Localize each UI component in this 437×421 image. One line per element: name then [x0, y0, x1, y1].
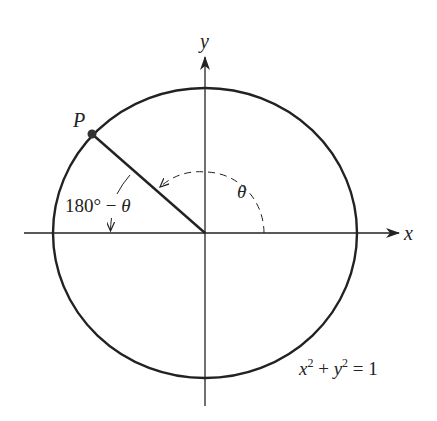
equation-rhs: = 1 [348, 358, 378, 379]
supplement-angle-prefix: 180° − [65, 195, 121, 216]
point-p-marker [88, 130, 97, 139]
supplement-angle-arc-lower [111, 218, 112, 231]
theta-angle-arc [160, 172, 264, 233]
supplement-angle-arc-upper [117, 175, 130, 194]
supplement-angle-label: 180° − θ [65, 195, 131, 216]
theta-label: θ [237, 181, 246, 202]
supplement-angle-theta: θ [121, 195, 130, 216]
radius-segment-op [92, 134, 205, 233]
point-p-label: P [72, 109, 85, 131]
circle-equation: x2 + y2 = 1 [298, 356, 378, 379]
x-axis-label: x [403, 222, 413, 244]
y-axis-label: y [198, 30, 209, 53]
unit-circle-diagram: y x P θ 180° − θ x2 + y2 = 1 [0, 0, 437, 421]
equation-plus: + [313, 358, 333, 379]
equation-y: y [332, 358, 343, 379]
